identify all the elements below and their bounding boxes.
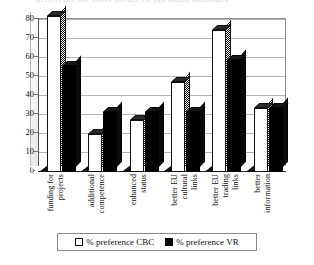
x-axis-label: better EU <box>211 174 221 206</box>
x-axis-label: cultural <box>180 174 190 199</box>
legend-item-cbc: % preference CBC <box>75 238 154 247</box>
x-axis-labels: funding forprojectsadditionalcompetencee… <box>38 174 286 232</box>
bar-cbc <box>254 108 268 172</box>
bar-face <box>103 112 117 172</box>
bar-chart: preference for cross-border co-operation… <box>0 0 314 265</box>
chart-title-cropped: preference for cross-border co-operation… <box>36 0 280 3</box>
y-tick-label: 40 <box>12 90 34 99</box>
bar-side-3d <box>76 56 81 167</box>
bar-vr <box>269 108 283 172</box>
bar-cbc <box>88 134 102 173</box>
bar-face <box>212 30 226 172</box>
x-axis-label: funding for <box>46 174 56 211</box>
bar-cbc <box>47 16 61 172</box>
x-axis-label: status <box>139 174 149 193</box>
bar-vr <box>186 112 200 172</box>
bar-side-3d <box>200 102 205 167</box>
legend-label: % preference VR <box>176 238 238 247</box>
bar-face <box>145 112 159 172</box>
bar-side-3d <box>241 50 246 167</box>
x-axis-label: better EU <box>170 174 180 206</box>
x-axis-label: links <box>231 174 241 190</box>
y-tick-label: 70 <box>12 33 34 42</box>
legend-item-vr: % preference VR <box>165 238 238 247</box>
x-axis-label: links <box>190 174 200 190</box>
y-tick-label: 0 <box>12 166 34 175</box>
bar-face <box>254 108 268 172</box>
y-tick-label: 10 <box>12 147 34 156</box>
legend-label: % preference CBC <box>86 238 154 247</box>
bar-vr <box>227 60 241 172</box>
bar-vr <box>62 66 76 172</box>
legend: % preference CBC % preference VR <box>57 233 257 251</box>
bar-side-3d <box>117 102 122 167</box>
bar-face <box>130 120 144 172</box>
x-axis-label: information <box>263 174 273 213</box>
bar-face <box>186 112 200 172</box>
x-axis-label: trading <box>221 174 231 197</box>
y-tick-label: 20 <box>12 128 34 137</box>
x-axis-label: better <box>253 174 263 193</box>
y-axis: 80 70 60 50 40 30 20 10 0 <box>8 18 34 172</box>
x-axis-label: enhanced <box>129 174 139 205</box>
bar-vr <box>103 112 117 172</box>
x-axis-label: additional <box>87 174 97 207</box>
bar-face <box>269 108 283 172</box>
white-square-icon <box>75 238 83 246</box>
y-tick-label: 50 <box>12 71 34 80</box>
black-square-icon <box>165 238 173 246</box>
bar-cbc <box>212 30 226 172</box>
x-axis-label: competence <box>97 174 107 213</box>
y-tick-label: 60 <box>12 52 34 61</box>
bar-face <box>88 134 102 173</box>
bar-side-3d <box>283 98 288 167</box>
bar-cbc <box>130 120 144 172</box>
bar-cbc <box>171 82 185 172</box>
y-tick-label: 30 <box>12 109 34 118</box>
bar-face <box>171 82 185 172</box>
bars-layer <box>38 18 286 172</box>
x-axis-label: projects <box>56 174 66 200</box>
bar-face <box>227 60 241 172</box>
bar-face <box>62 66 76 172</box>
bar-vr <box>145 112 159 172</box>
bar-face <box>47 16 61 172</box>
y-tick-label: 80 <box>12 14 34 23</box>
